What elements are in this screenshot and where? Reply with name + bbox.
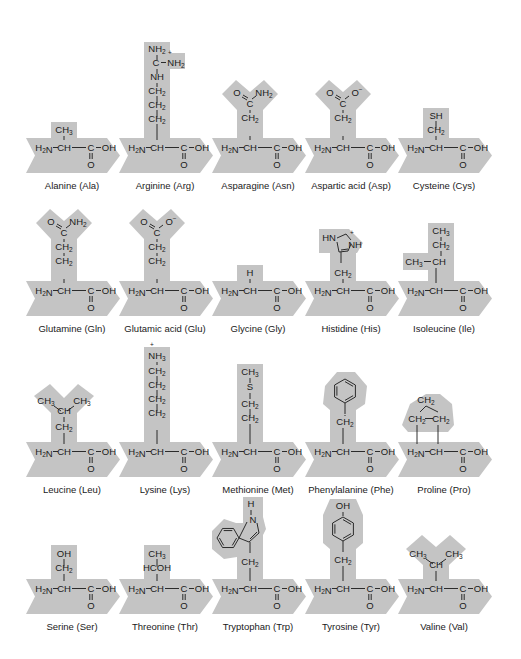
carboxyl-carbon: C — [88, 285, 95, 296]
hydroxyl-group: OH — [381, 142, 395, 153]
amino-acid-label: Glutamine (Gln) — [38, 323, 105, 334]
amino-acid-label: Lysine (Lys) — [140, 484, 191, 495]
carbonyl-oxygen: O — [459, 159, 466, 170]
amino-acid-label: Leucine (Leu) — [43, 484, 101, 495]
hydroxyl-group: OH — [102, 285, 116, 296]
hydroxyl-group: OH — [102, 142, 116, 153]
hydroxyl-group: OH — [381, 583, 395, 594]
amino-acid-label: Tyrosine (Tyr) — [322, 621, 380, 632]
carbonyl-oxygen: O — [87, 463, 94, 474]
carboxyl-carbon: C — [88, 583, 95, 594]
carboxyl-carbon: C — [88, 142, 95, 153]
side-chain-shade — [315, 80, 371, 138]
atom-label: C — [340, 98, 347, 109]
carboxyl-carbon: C — [274, 285, 281, 296]
hydroxyl-group: OH — [474, 583, 488, 594]
amino-acid-label: Arginine (Arg) — [136, 180, 195, 191]
hydroxyl-group: OH — [288, 583, 302, 594]
hydroxyl-group: OH — [195, 446, 209, 457]
atom-label: NH — [150, 71, 164, 82]
carbonyl-oxygen: O — [180, 302, 187, 313]
hydroxyl-group: OH — [474, 142, 488, 153]
hydroxyl-group: OH — [474, 446, 488, 457]
amino-acid-label: Asparagine (Asn) — [221, 180, 294, 191]
atom-label: NH — [348, 239, 362, 250]
carbonyl-oxygen: O — [180, 600, 187, 611]
carboxyl-carbon: C — [460, 142, 467, 153]
carbonyl-oxygen: O — [459, 302, 466, 313]
amino-acid-chart: H2NCHCOHOCH3H2NCHCOHONH2CNH2+NHCH2CH2CH2… — [0, 0, 521, 659]
carboxyl-carbon: C — [181, 285, 188, 296]
atom-label: N — [250, 514, 257, 525]
atom-label: CH — [429, 559, 443, 570]
carboxyl-carbon: C — [274, 446, 281, 457]
amino-acid-diagram: H2NCHCOHOCH3H2NCHCOHONH2CNH2+NHCH2CH2CH2… — [0, 0, 521, 659]
amino-acid-label: Alanine (Ala) — [45, 180, 99, 191]
atom-label: OH — [336, 500, 350, 511]
carboxyl-carbon: C — [367, 446, 374, 457]
amino-acid-label: Phenylalanine (Phe) — [308, 484, 394, 495]
atom-label: O — [233, 87, 240, 98]
carboxyl-carbon: C — [367, 583, 374, 594]
atom-label: C — [154, 227, 161, 238]
carbonyl-oxygen: O — [87, 159, 94, 170]
amino-acid-label: Glutamic acid (Glu) — [124, 323, 205, 334]
amino-acid-label: Tryptophan (Trp) — [223, 621, 294, 632]
hydroxyl-group: OH — [195, 142, 209, 153]
carbonyl-oxygen: O — [366, 159, 373, 170]
alpha-carbon: CH — [429, 446, 443, 457]
carbonyl-oxygen: O — [180, 159, 187, 170]
alpha-carbon: CH — [57, 583, 71, 594]
alpha-carbon: CH — [336, 285, 350, 296]
alpha-carbon: CH — [150, 285, 164, 296]
amino-acid-label: Histidine (His) — [321, 323, 380, 334]
atom-label: HN — [322, 232, 336, 243]
atom-label: H — [247, 267, 254, 278]
atom-label: O — [47, 216, 54, 227]
atom-label: + — [168, 49, 172, 56]
carboxyl-carbon: C — [274, 142, 281, 153]
alpha-carbon: CH — [57, 446, 71, 457]
carboxyl-carbon: C — [181, 142, 188, 153]
carbonyl-oxygen: O — [459, 600, 466, 611]
hydroxyl-group: OH — [102, 446, 116, 457]
atom-label: S — [247, 381, 253, 392]
carbonyl-oxygen: O — [273, 159, 280, 170]
alpha-carbon: CH — [150, 142, 164, 153]
carboxyl-carbon: C — [460, 285, 467, 296]
hydroxyl-group: OH — [381, 446, 395, 457]
amino-acid-label: Proline (Pro) — [417, 484, 470, 495]
atom-label: C — [153, 57, 160, 68]
atom-label: H — [248, 498, 255, 509]
alpha-carbon: CH — [243, 142, 257, 153]
atom-label: CH — [57, 405, 71, 416]
amino-acid-label: Glycine (Gly) — [231, 323, 286, 334]
carbonyl-oxygen: O — [366, 302, 373, 313]
carbonyl-oxygen: O — [459, 463, 466, 474]
alpha-carbon: CH — [150, 446, 164, 457]
amino-acid-label: Valine (Val) — [420, 621, 468, 632]
alpha-carbon: CH — [336, 142, 350, 153]
amino-acid-label: Threonine (Thr) — [132, 621, 198, 632]
alpha-carbon: CH — [150, 583, 164, 594]
atom-label: + — [350, 229, 354, 236]
carbonyl-oxygen: O — [273, 600, 280, 611]
alpha-carbon: CH — [57, 285, 71, 296]
alpha-carbon: CH — [243, 446, 257, 457]
side-chain-shade — [222, 80, 278, 138]
carbonyl-oxygen: O — [87, 600, 94, 611]
carboxyl-carbon: C — [367, 142, 374, 153]
alpha-carbon: CH — [429, 285, 443, 296]
hydroxyl-group: OH — [288, 446, 302, 457]
atom-label: C — [61, 227, 68, 238]
atom-label: O — [140, 216, 147, 227]
hydroxyl-group: OH — [288, 285, 302, 296]
carboxyl-carbon: C — [460, 583, 467, 594]
atom-label: O — [326, 87, 333, 98]
hydroxyl-group: OH — [102, 583, 116, 594]
atom-label: OH — [57, 548, 71, 559]
atom-label: HCOH — [143, 562, 171, 573]
alpha-carbon: CH — [243, 285, 257, 296]
atom-label: C — [247, 98, 254, 109]
alpha-carbon: CH — [243, 583, 257, 594]
